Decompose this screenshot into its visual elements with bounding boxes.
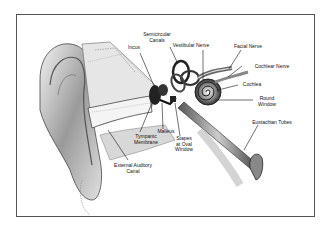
ossicles (149, 84, 176, 105)
label-eustachian-tubes: Eustachian Tubes (248, 120, 296, 126)
label-facial-nerve: Facial Nerve (230, 44, 266, 50)
label-cochlea: Cochlea (240, 82, 264, 88)
semicircular-canals-shape (169, 61, 199, 94)
label-vestibular-nerve: Vestibular Nerve (170, 43, 212, 49)
cochlea-shape (195, 79, 221, 105)
label-tympanic-membrane: Tympanic Membrane (132, 134, 160, 145)
label-incus: Incus (124, 45, 144, 51)
label-cochlear-nerve: Cochlear Nerve (250, 64, 294, 70)
label-round-window: Round Window (255, 96, 279, 107)
label-stapes-at-oval-window: Stapes at Oval Window (173, 136, 195, 153)
label-external-auditory-canal: External Auditory Canal (110, 163, 156, 174)
label-semicircular-canals: Semicircular Canals (141, 32, 173, 43)
